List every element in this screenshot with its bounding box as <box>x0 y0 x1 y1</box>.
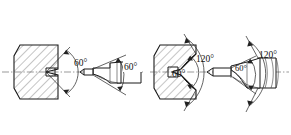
left-tool-angle-label: 60° <box>124 62 138 72</box>
left-hole-angle-label: 60° <box>74 58 88 68</box>
right-hole-angle-label: 60° <box>172 69 186 79</box>
figure-right: 60° 120° <box>150 34 289 112</box>
drawing-canvas: 60° 60° <box>0 0 291 135</box>
figure-left: 60° 60° <box>2 43 143 101</box>
right-hole-countersink-label: 120° <box>196 54 214 64</box>
technical-drawing: 60° 60° <box>0 0 291 135</box>
right-tool-angle-label: 60° <box>235 63 247 73</box>
right-tool-countersink-label: 120° <box>259 50 277 60</box>
